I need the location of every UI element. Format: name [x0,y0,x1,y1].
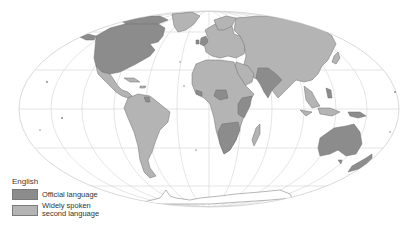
legend-label-official: Official language [42,191,98,199]
region-arctic-islands [120,16,168,24]
legend-item-second-language: Widely spoken second language [12,202,99,218]
official-swatch [12,189,38,200]
legend-label-second-language: Widely spoken second language [42,202,99,218]
legend-item-official: Official language [12,189,99,200]
legend-label-line2: second language [42,209,99,218]
legend: English Official language Widely spoken … [12,178,99,220]
second-language-swatch [12,205,38,216]
legend-title: English [12,178,99,186]
